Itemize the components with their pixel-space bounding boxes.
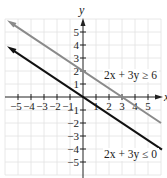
x-tick-label: −4: [23, 100, 35, 112]
x-tick-label: 2: [106, 100, 112, 112]
x-axis-arrow-icon: [155, 95, 163, 100]
y-tick-label: −5: [67, 156, 79, 168]
y-tick-label: 3: [74, 52, 80, 64]
y-tick-label: −4: [67, 143, 79, 155]
inequality-label-top: 2x + 3y ≥ 6: [104, 69, 157, 82]
y-axis-label: y: [78, 3, 85, 17]
x-tick-label: −2: [49, 100, 61, 112]
x-tick-label: 3: [119, 100, 125, 112]
x-tick-label: −3: [36, 100, 48, 112]
y-tick-label: −2: [67, 117, 79, 129]
y-tick-label: 4: [74, 39, 80, 51]
x-axis-label: x: [163, 90, 167, 104]
inequality-label-bottom: 2x + 3y ≤ 0: [104, 148, 157, 161]
y-tick-label: 1: [74, 78, 80, 90]
y-tick-label: 5: [74, 26, 80, 38]
y-tick-label: −3: [67, 130, 79, 142]
x-tick-label: −5: [10, 100, 22, 112]
y-tick-label: −1: [67, 104, 79, 116]
inequality-graph: −5 −4 −3 −2 −1 1 2 3 4 5 5 4 3 2 1 −1 −2…: [0, 0, 167, 178]
x-tick-label: 5: [145, 100, 151, 112]
line-2x-3y-0: [7, 46, 162, 149]
